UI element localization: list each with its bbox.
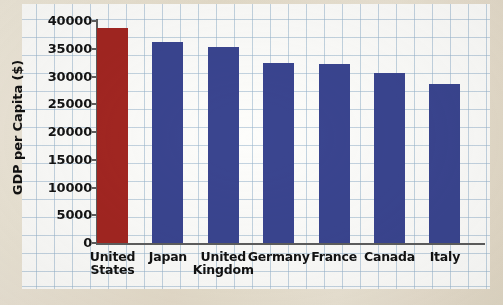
scanned-page: GDP per Capita ($) 050001000015000200002… xyxy=(0,0,503,305)
x-axis-label-italy: Italy xyxy=(403,250,487,263)
bar-germany[interactable] xyxy=(263,63,294,243)
y-axis-title: GDP per Capita ($) xyxy=(10,48,25,208)
bar-france[interactable] xyxy=(319,64,350,243)
y-axis-tick-label: 25000 xyxy=(28,97,92,110)
x-axis-line xyxy=(96,243,485,245)
bar-united-kingdom[interactable] xyxy=(208,47,239,243)
y-axis-tick-label: 40000 xyxy=(28,14,92,27)
bar-canada[interactable] xyxy=(374,73,405,243)
bar-japan[interactable] xyxy=(152,42,183,243)
bar-italy[interactable] xyxy=(429,84,460,243)
y-axis-tick-label: 20000 xyxy=(28,125,92,138)
bar-chart: GDP per Capita ($) 050001000015000200002… xyxy=(0,0,503,305)
y-axis-tick-label: 5000 xyxy=(28,208,92,221)
y-axis-tick-label: 35000 xyxy=(28,42,92,55)
y-axis-tick-label: 30000 xyxy=(28,70,92,83)
y-axis-tick-label: 15000 xyxy=(28,153,92,166)
y-axis-tick-label: 10000 xyxy=(28,181,92,194)
y-axis-tick-mark xyxy=(92,20,97,22)
y-axis-tick-label: 0 xyxy=(28,236,92,249)
bar-united-states[interactable] xyxy=(97,28,128,243)
